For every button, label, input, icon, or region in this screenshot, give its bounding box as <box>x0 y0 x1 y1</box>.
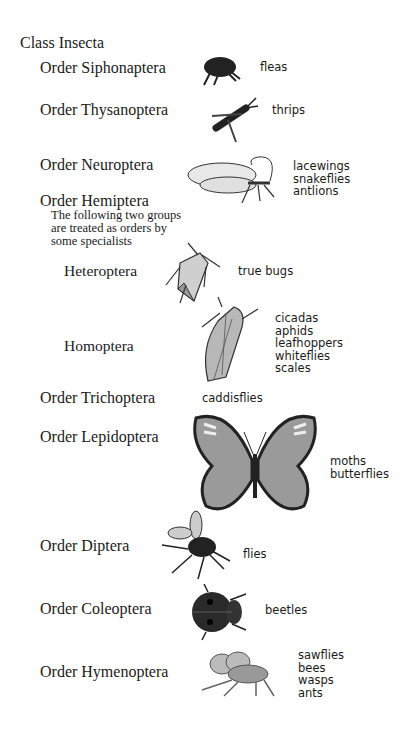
common-names-hymenoptera: sawflies bees wasps ants <box>298 649 344 699</box>
common-name: butterflies <box>330 468 389 481</box>
true-bug-icon <box>158 241 230 305</box>
order-trichoptera-label: Order Trichoptera <box>40 389 155 407</box>
common-names-siphonaptera: fleas <box>260 61 287 74</box>
order-siphonaptera-label: Order Siphonaptera <box>40 59 166 77</box>
common-name: true bugs <box>238 265 293 278</box>
thrips-icon <box>208 92 260 142</box>
cicada-icon <box>196 297 262 385</box>
common-name: cicadas <box>275 312 343 325</box>
common-names-coleoptera: beetles <box>265 604 307 617</box>
order-diptera-label: Order Diptera <box>40 537 129 555</box>
common-names-neuroptera: lacewings snakeflies antlions <box>293 160 350 198</box>
common-name: wasps <box>298 674 344 687</box>
subgroup-heteroptera-label: Heteroptera <box>64 262 137 280</box>
common-name: scales <box>275 362 343 375</box>
butterfly-icon <box>190 414 320 518</box>
common-name: sawflies <box>298 649 344 662</box>
order-hymenoptera-label: Order Hymenoptera <box>40 663 168 681</box>
common-name: beetles <box>265 604 307 617</box>
common-name: lacewings <box>293 160 350 173</box>
common-names-trichoptera: caddisflies <box>202 392 263 405</box>
order-lepidoptera-label: Order Lepidoptera <box>40 428 159 446</box>
common-names-thysanoptera: thrips <box>272 104 305 117</box>
lacewing-icon <box>188 155 278 207</box>
common-name: antlions <box>293 185 350 198</box>
common-names-lepidoptera: moths butterflies <box>330 455 389 480</box>
beetle-icon <box>188 584 250 640</box>
common-name: thrips <box>272 104 305 117</box>
bee-icon <box>198 650 278 700</box>
common-name: flies <box>243 548 267 561</box>
common-name: ants <box>298 687 344 700</box>
common-name: fleas <box>260 61 287 74</box>
common-names-diptera: flies <box>243 548 267 561</box>
order-thysanoptera-label: Order Thysanoptera <box>40 101 168 119</box>
common-name: leafhoppers <box>275 337 343 350</box>
order-neuroptera-label: Order Neuroptera <box>40 156 153 174</box>
flea-icon <box>200 55 248 89</box>
subgroup-homoptera-label: Homoptera <box>64 337 134 355</box>
common-names-homoptera: cicadas aphids leafhoppers whiteflies sc… <box>275 312 343 375</box>
common-name: caddisflies <box>202 392 263 405</box>
common-names-heteroptera: true bugs <box>238 265 293 278</box>
order-coleoptera-label: Order Coleoptera <box>40 600 152 618</box>
class-title: Class Insecta <box>20 34 104 52</box>
common-name: moths <box>330 455 389 468</box>
fly-icon <box>158 511 230 579</box>
